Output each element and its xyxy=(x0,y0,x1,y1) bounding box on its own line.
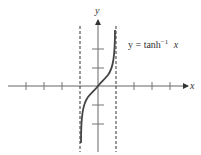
equation-superscript: −1 xyxy=(161,38,168,46)
x-axis-label: x xyxy=(190,80,194,91)
graph-canvas xyxy=(0,0,201,155)
equation-annotation: y = tanh−1 x xyxy=(128,38,178,50)
equation-variable: x xyxy=(174,39,178,50)
equation-text: y = tanh xyxy=(128,39,161,50)
y-axis-label: y xyxy=(95,5,99,16)
